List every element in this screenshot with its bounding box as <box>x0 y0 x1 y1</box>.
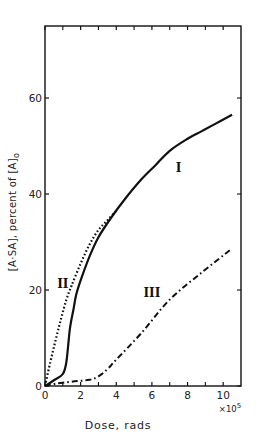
curve-III <box>45 249 231 386</box>
curve-I <box>45 115 232 386</box>
x-axis-title: Dose, rads <box>85 419 152 432</box>
curve-II <box>45 211 116 386</box>
x-tick-label: 4 <box>113 389 120 401</box>
y-tick-label: 40 <box>29 188 42 200</box>
chart: 02468100204060 IIIIII Dose, rads ×105 [A… <box>0 0 261 445</box>
y-tick-label: 0 <box>35 380 42 392</box>
curve-label-III: III <box>143 286 160 300</box>
plot-frame <box>45 26 241 386</box>
x-multiplier: ×105 <box>219 402 241 414</box>
x-tick-label: 8 <box>184 389 191 401</box>
x-tick-label: 6 <box>149 389 156 401</box>
y-axis-title: [A·SA], percent of [A]o <box>7 153 21 271</box>
y-tick-label: 20 <box>29 284 42 296</box>
y-tick-label: 60 <box>29 92 42 104</box>
x-tick-label: 0 <box>42 389 49 401</box>
plot-border <box>45 26 241 386</box>
x-tick-label: 2 <box>77 389 84 401</box>
x-tick-label: 10 <box>216 389 229 401</box>
data-curves: IIIIII <box>45 115 232 386</box>
axis-ticks: 02468100204060 <box>29 26 241 401</box>
curve-label-I: I <box>176 161 182 175</box>
curve-label-II: II <box>57 277 69 291</box>
